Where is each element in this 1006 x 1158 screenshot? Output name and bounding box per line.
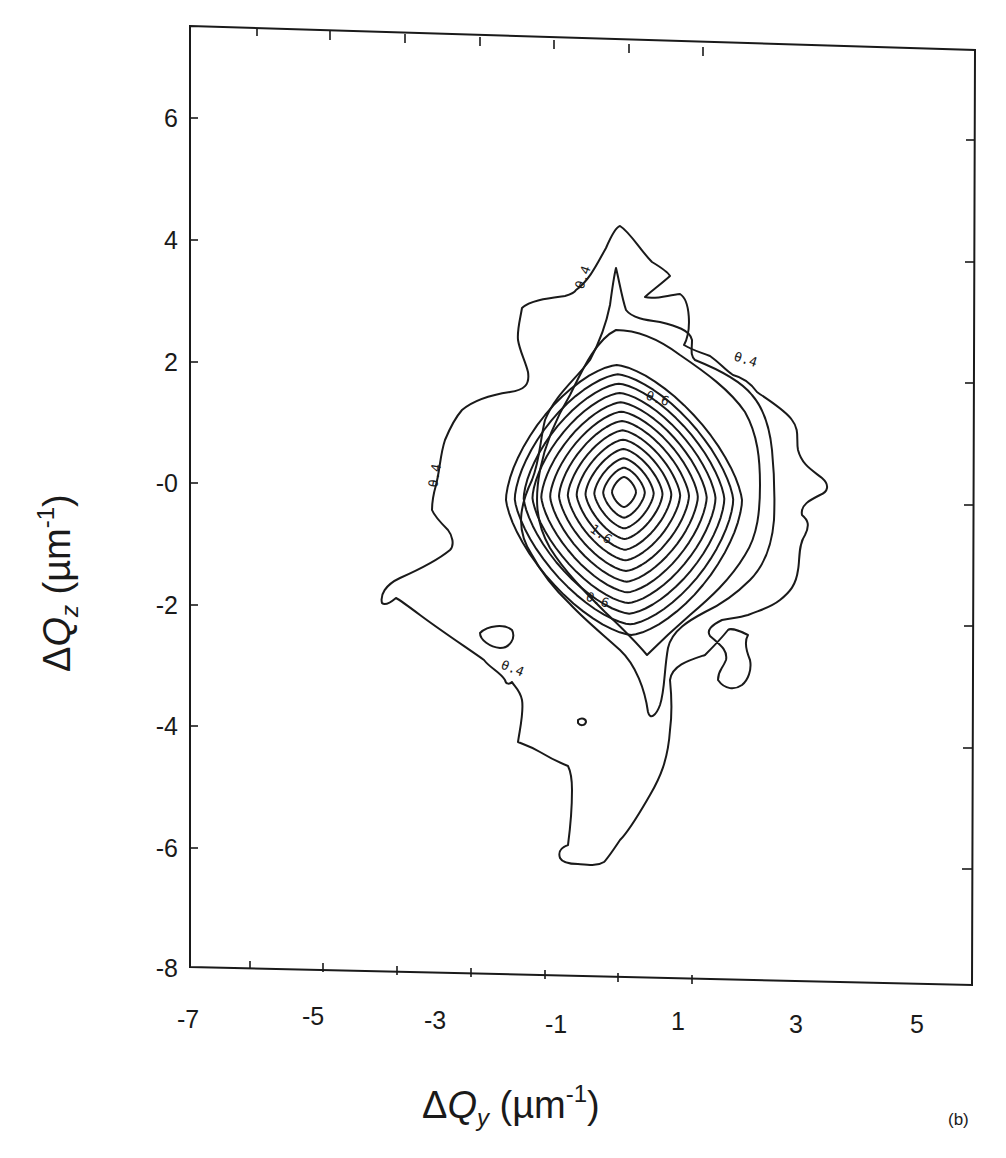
panel-label: (b) (948, 1110, 969, 1130)
svg-text:-5: -5 (302, 1002, 324, 1030)
contour-island-dot (578, 719, 586, 726)
svg-text:2: 2 (164, 348, 178, 376)
svg-text:θ.4: θ.4 (425, 463, 444, 489)
svg-text:θ.4: θ.4 (572, 264, 594, 291)
x-axis-title: ΔQy (µm-1) (422, 1080, 600, 1131)
x-axis-ticks-bottom (250, 961, 692, 984)
svg-text:-6: -6 (156, 834, 178, 862)
plot-frame (190, 26, 975, 985)
contour-island-left (480, 626, 513, 648)
svg-text:3: 3 (789, 1010, 803, 1038)
svg-text:-8: -8 (156, 954, 178, 982)
svg-text:θ.6: θ.6 (584, 589, 611, 611)
contour-ring (612, 477, 636, 507)
svg-text:1: 1 (671, 1007, 685, 1035)
svg-text:5: 5 (910, 1010, 924, 1038)
svg-text:-7: -7 (177, 1005, 199, 1033)
contour-lines (382, 226, 828, 865)
y-axis-title: ΔQz (µm-1) (32, 494, 83, 672)
svg-text:θ.4: θ.4 (732, 349, 759, 371)
svg-text:-3: -3 (424, 1006, 446, 1034)
x-tick-labels: -7 -5 -3 -1 1 3 5 (177, 1002, 924, 1038)
contour-inner-rings (506, 365, 742, 635)
svg-text:6: 6 (164, 104, 178, 132)
svg-text:4: 4 (164, 226, 178, 254)
contour-0.4-outer (382, 226, 828, 865)
svg-text:-2: -2 (156, 591, 178, 619)
y-axis-ticks-left (190, 118, 198, 848)
svg-text:-4: -4 (156, 712, 178, 740)
svg-text:-1: -1 (545, 1010, 567, 1038)
svg-text:-0: -0 (156, 469, 178, 497)
contour-chart: 6 4 2 -0 -2 -4 -6 -8 -7 -5 -3 -1 1 3 5 θ… (0, 0, 1006, 1158)
contour-ring (603, 468, 645, 518)
y-tick-labels: 6 4 2 -0 -2 -4 -6 -8 (156, 104, 178, 982)
x-axis-ticks-top (257, 28, 703, 56)
